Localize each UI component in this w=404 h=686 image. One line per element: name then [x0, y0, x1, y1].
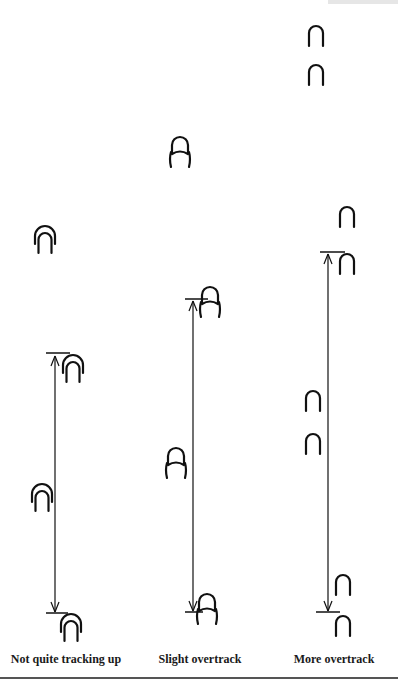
stride-arrow: [185, 299, 208, 612]
hoofprint-icon: [336, 575, 350, 595]
hoofprint-icon: [170, 137, 190, 167]
caption-more-overtrack: More overtrack: [294, 652, 375, 667]
hoofprint-icon: [166, 448, 186, 478]
hoofprint-icon: [309, 65, 323, 85]
hoofprint-icon: [63, 355, 83, 382]
caption-slight-overtrack: Slight overtrack: [159, 652, 242, 667]
stride-arrows: [46, 252, 345, 613]
hoofprint-icon: [35, 226, 55, 253]
hoofprint-icon: [306, 434, 320, 454]
hoofprint-icon: [340, 254, 354, 274]
hoofprint-icon: [309, 26, 323, 46]
stride-arrow: [316, 252, 345, 612]
hoofprint-icon: [200, 287, 220, 317]
hoofprint-icon: [61, 614, 81, 641]
hoofprint-icon: [336, 616, 350, 636]
bottom-rule: [0, 677, 398, 679]
stride-arrow: [46, 353, 70, 613]
hoofprint-tracking-diagram: [0, 0, 404, 686]
caption-not-quite-tracking-up: Not quite tracking up: [11, 652, 121, 667]
hoofprint-icon: [197, 594, 217, 624]
hoofprint-icon: [306, 391, 320, 411]
hoofprint-icon: [32, 484, 52, 511]
hoofprint-icon: [340, 207, 354, 227]
